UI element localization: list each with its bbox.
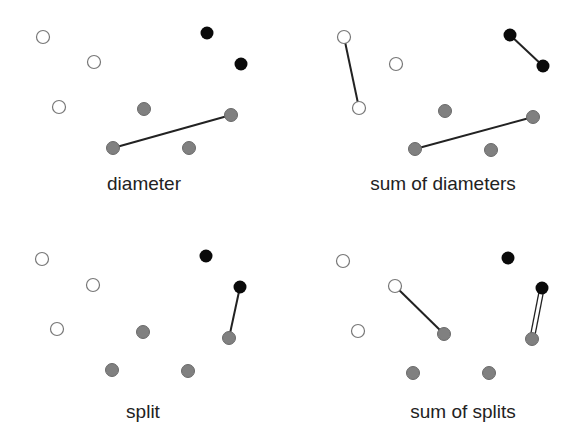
gray-point (526, 333, 539, 346)
black-point (235, 58, 248, 71)
gray-point (438, 328, 451, 341)
gray-point (409, 143, 422, 156)
panel-split: split (36, 250, 247, 423)
edge-line (229, 287, 240, 338)
panel-label: sum of diameters (370, 173, 516, 194)
gray-point (182, 365, 195, 378)
panel-sum-of-diameters: sum of diameters (338, 29, 550, 195)
gray-point (138, 103, 151, 116)
edge-line (415, 117, 533, 149)
white-point (390, 58, 403, 71)
black-point (536, 282, 549, 295)
gray-point (106, 364, 119, 377)
panel-label: diameter (107, 173, 182, 194)
white-point (88, 56, 101, 69)
black-point (537, 60, 550, 73)
black-point (504, 29, 517, 42)
white-point (353, 102, 366, 115)
edge-line (530, 288, 540, 339)
white-point (337, 255, 350, 268)
gray-point (137, 326, 150, 339)
white-point (53, 101, 66, 114)
black-point (234, 281, 247, 294)
gray-point (439, 105, 452, 118)
gray-point (485, 144, 498, 157)
panel-label: sum of splits (410, 401, 516, 422)
gray-point (225, 109, 238, 122)
white-point (352, 325, 365, 338)
edge-line (395, 286, 444, 334)
gray-point (223, 332, 236, 345)
edge-line (113, 115, 231, 148)
white-point (36, 253, 49, 266)
clustering-criteria-figure: diameter sum of diameters split sum of s… (0, 0, 575, 447)
white-point (338, 31, 351, 44)
black-point (502, 252, 515, 265)
gray-point (183, 142, 196, 155)
panel-diameter: diameter (37, 27, 248, 195)
black-point (201, 27, 214, 40)
gray-point (407, 367, 420, 380)
white-point (389, 280, 402, 293)
white-point (37, 31, 50, 44)
gray-point (527, 111, 540, 124)
panel-sum-of-splits: sum of splits (337, 252, 549, 423)
edge-line (510, 35, 543, 66)
white-point (51, 323, 64, 336)
black-point (200, 250, 213, 263)
edge-line (344, 37, 359, 108)
white-point (87, 279, 100, 292)
panel-label: split (126, 401, 161, 422)
gray-point (483, 367, 496, 380)
gray-point (107, 142, 120, 155)
edge-line (534, 288, 544, 339)
